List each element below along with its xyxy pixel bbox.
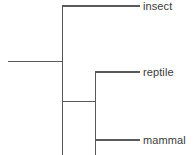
taxon-label-reptile: reptile [143, 67, 174, 78]
taxon-label-insect: insect [143, 1, 172, 12]
cladogram-figure: insect reptile mammal [0, 0, 193, 155]
taxon-label-mammal: mammal [143, 135, 186, 146]
